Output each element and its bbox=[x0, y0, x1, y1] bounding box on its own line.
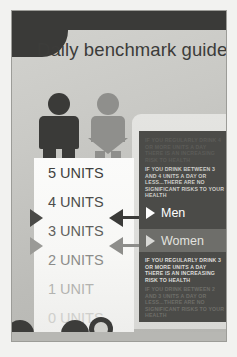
play-triangle-icon bbox=[146, 235, 155, 247]
unit-row: 5 UNITS bbox=[34, 158, 134, 187]
women-row[interactable]: Women bbox=[139, 229, 227, 252]
play-triangle-icon bbox=[146, 207, 155, 219]
female-head-shape bbox=[97, 93, 119, 115]
page-title: Daily benchmark guide bbox=[37, 39, 227, 61]
bottom-strip-decor bbox=[12, 332, 227, 341]
info-panel: IF YOU REGULARLY DRINK 4 OR MORE UNITS A… bbox=[139, 131, 227, 322]
female-skirt-shape bbox=[88, 138, 128, 154]
unit-row: 1 UNIT bbox=[34, 274, 134, 303]
men-pointer-arrow-icon bbox=[109, 209, 123, 227]
poster-slide: Daily benchmark guide 5 UNITS 4 UNITS bbox=[0, 0, 237, 357]
men-label: Men bbox=[161, 206, 185, 220]
slide-canvas: Daily benchmark guide 5 UNITS 4 UNITS bbox=[11, 10, 227, 342]
men-row[interactable]: Men bbox=[139, 201, 227, 224]
info-paragraph-men: IF YOU DRINK BETWEEN 3 AND 4 UNITS A DAY… bbox=[145, 166, 225, 199]
top-decor-bar bbox=[64, 11, 227, 30]
women-marker-triangle-icon bbox=[30, 237, 43, 255]
women-label: Women bbox=[161, 234, 204, 248]
men-marker-triangle-icon bbox=[30, 209, 43, 227]
women-pointer-arrow-icon bbox=[109, 237, 123, 255]
info-paragraph-women-risk: IF YOU REGULARLY DRINK 3 OR MORE UNITS A… bbox=[145, 257, 225, 283]
male-body-shape bbox=[39, 116, 79, 149]
info-paragraph-women-safe: IF YOU DRINK BETWEEN 2 AND 3 UNITS A DAY… bbox=[145, 286, 225, 319]
male-head-shape bbox=[48, 93, 70, 115]
info-paragraph-top-faded: IF YOU REGULARLY DRINK 4 OR MORE UNITS A… bbox=[145, 137, 225, 163]
